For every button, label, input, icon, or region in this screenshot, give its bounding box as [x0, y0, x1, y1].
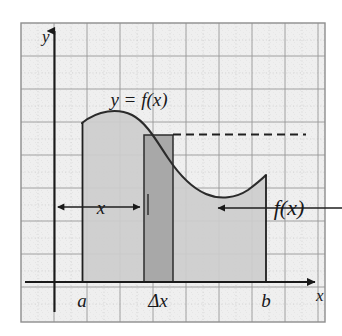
y-axis-label: y — [40, 27, 50, 46]
upper-limit-label-b: b — [261, 290, 271, 311]
figure-container: y x y = f(x) x Δx f(x) a b — [0, 0, 342, 336]
curve-equation-label: y = f(x) — [108, 89, 167, 111]
area-under-curve-diagram: y x y = f(x) x Δx f(x) a b — [0, 0, 342, 336]
width-label-x: x — [96, 197, 106, 218]
lower-limit-label-a: a — [77, 290, 87, 311]
strip-width-label-delta-x: Δx — [147, 290, 168, 311]
x-axis-label: x — [315, 286, 324, 305]
height-label-fx: f(x) — [274, 195, 305, 220]
